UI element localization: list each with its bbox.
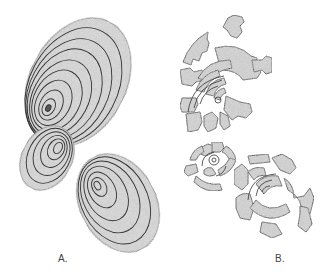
large-fragmented <box>180 15 272 132</box>
medium-ovoid <box>60 139 176 267</box>
panel-a <box>4 0 176 267</box>
panel-a-label: A. <box>58 253 67 264</box>
medium-fragmented <box>234 154 314 238</box>
figure-illustration <box>0 0 335 275</box>
large-ovoid <box>4 0 153 165</box>
small-fragmented <box>184 142 236 191</box>
panel-b-label: B. <box>275 253 284 264</box>
panel-b <box>180 15 314 238</box>
